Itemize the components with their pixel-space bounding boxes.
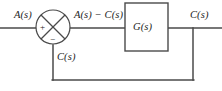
input-signal-label: A(s) (14, 10, 32, 21)
block-diagram: A(s) A(s) − C(s) G(s) C(s) C(s) + − (0, 0, 222, 91)
summing-junction-plus-sign: + (40, 23, 45, 32)
summing-junction-minus-sign: − (50, 35, 55, 44)
transfer-function-label: G(s) (133, 22, 152, 33)
output-signal-label: C(s) (190, 10, 208, 21)
error-signal-label: A(s) − C(s) (74, 10, 123, 21)
feedback-signal-label: C(s) (57, 52, 75, 63)
